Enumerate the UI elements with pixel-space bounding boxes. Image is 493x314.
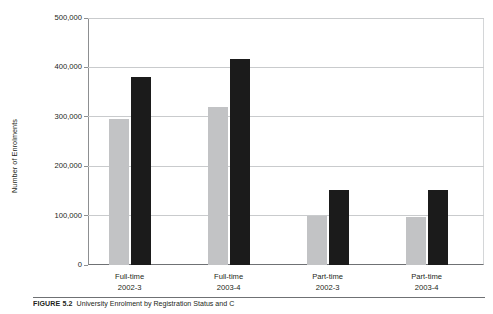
y-tick-label: 400,000 [26,62,82,71]
y-tick-label: 100,000 [26,211,82,220]
y-tick-mark [84,215,88,216]
bar-series-1-cat-3 [406,217,426,265]
x-tick-label-line: 2002-3 [85,283,175,294]
y-tick-label: 300,000 [26,112,82,121]
y-tick-mark [84,265,88,266]
x-tick-label-line: Full-time [184,272,274,283]
bar-series-2-cat-1 [230,59,250,265]
bar-series-1-cat-1 [208,107,228,265]
x-tick-label-line: Part-time [382,272,472,283]
x-category-label: Part-time2002-3 [283,272,373,293]
x-category-label: Part-time2003-4 [382,272,472,293]
x-category-label: Full-time2002-3 [85,272,175,293]
bar-series-2-cat-0 [131,77,151,265]
bar-series-1-cat-2 [307,216,327,265]
x-category-label: Full-time2003-4 [184,272,274,293]
figure-caption: FIGURE 5.2 University Enrolment by Regis… [33,300,485,310]
y-axis-title: Number of Enrolments [10,96,24,216]
y-tick-label: 200,000 [26,161,82,170]
y-tick-label: 500,000 [26,13,82,22]
y-tick-label: 0 [26,260,82,269]
bar-series-2-cat-3 [428,190,448,265]
gridline [88,18,484,19]
x-tick-label-line: Part-time [283,272,373,283]
y-tick-mark [84,166,88,167]
y-tick-mark [84,116,88,117]
x-tick-label-line: 2003-4 [184,283,274,294]
figure-title: University Enrolment by Registration Sta… [77,300,235,308]
x-tick-label-line: 2002-3 [283,283,373,294]
figure-container: Number of Enrolments 0100,000200,000300,… [0,0,493,314]
gridline [88,67,484,68]
x-tick-label-line: 2003-4 [382,283,472,294]
y-tick-mark [84,67,88,68]
bar-chart: Number of Enrolments 0100,000200,000300,… [0,0,493,296]
figure-number: FIGURE 5.2 [33,300,73,308]
plot-area [88,18,484,265]
caption-divider [33,297,485,298]
x-tick-label-line: Full-time [85,272,175,283]
bar-series-1-cat-0 [109,119,129,265]
y-tick-mark [84,18,88,19]
bar-series-2-cat-2 [329,190,349,265]
